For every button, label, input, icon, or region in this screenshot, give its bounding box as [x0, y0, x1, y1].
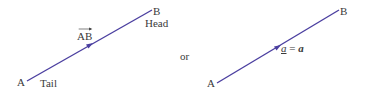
vector-ab-label: AB [77, 30, 92, 42]
overrightarrow-icon [77, 27, 94, 31]
or-separator: or [180, 50, 189, 62]
point-a-label: A [207, 77, 215, 89]
equals-sign: = [289, 42, 295, 54]
direction-arrow-icon [274, 45, 281, 51]
point-a-label: A [17, 76, 25, 88]
vector-ab-text: AB [77, 30, 92, 42]
vector-a-underlined: a [281, 42, 287, 54]
point-b-label: B [153, 5, 160, 17]
point-b-label: B [340, 5, 347, 17]
head-label: Head [145, 17, 168, 29]
vector-a-bold: a [298, 42, 304, 54]
tail-label: Tail [40, 77, 57, 89]
vector-a-equation: a = a [281, 42, 304, 54]
